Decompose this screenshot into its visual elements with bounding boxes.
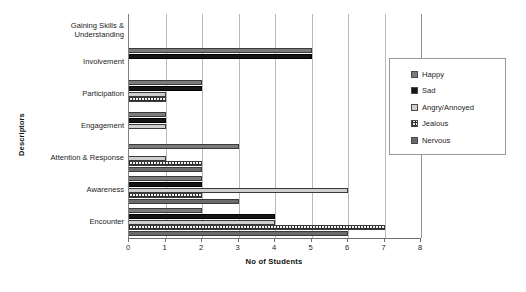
y-axis-category-label: Gaining Skills & Understanding <box>0 21 124 40</box>
bar-chart: Descriptors Gaining Skills & Understandi… <box>0 0 526 292</box>
bar-angry-annoyed <box>129 220 275 225</box>
bar-happy <box>129 48 312 53</box>
x-axis-tick-label: 5 <box>302 243 320 252</box>
bar-happy <box>129 208 202 213</box>
y-axis-category-label: Engagement <box>0 121 124 130</box>
legend: Happy Sad Angry/Annoyed Jealous Nervous <box>389 58 506 155</box>
y-axis-category-label: Encounter <box>0 217 124 226</box>
x-axis-tickmark <box>238 238 239 242</box>
legend-label: Happy <box>422 70 444 79</box>
x-axis-tick-label: 1 <box>156 243 174 252</box>
bar-jealous <box>129 225 385 230</box>
legend-label: Jealous <box>422 119 448 128</box>
bars-layer: Gaining Skills & UnderstandingInvolvemen… <box>129 14 420 238</box>
category-row: Engagement <box>129 110 420 142</box>
x-axis-tickmark <box>201 238 202 242</box>
bar-happy <box>129 144 239 149</box>
x-axis-tick-label: 6 <box>338 243 356 252</box>
x-axis-tickmark <box>128 238 129 242</box>
legend-item-nervous[interactable]: Nervous <box>411 132 505 149</box>
legend-label: Sad <box>422 86 436 95</box>
legend-item-happy[interactable]: Happy <box>411 66 505 83</box>
y-axis-category-label: Involvement <box>0 57 124 66</box>
bar-sad <box>129 214 275 219</box>
bar-sad <box>129 182 202 187</box>
legend-item-sad[interactable]: Sad <box>411 83 505 100</box>
legend-swatch-icon <box>411 71 418 78</box>
x-axis-tick-label: 0 <box>119 243 137 252</box>
bar-sad <box>129 118 166 123</box>
bar-sad <box>129 86 202 91</box>
legend-swatch-icon <box>411 137 418 144</box>
x-axis-tickmark <box>165 238 166 242</box>
legend-label: Angry/Annoyed <box>422 103 474 112</box>
bar-nervous <box>129 167 202 172</box>
legend-swatch-icon <box>411 87 418 94</box>
y-axis-category-label: Participation <box>0 89 124 98</box>
bar-angry-annoyed <box>129 188 348 193</box>
x-axis-tick-label: 8 <box>411 243 429 252</box>
legend-item-angry-annoyed[interactable]: Angry/Annoyed <box>411 99 505 116</box>
x-axis-tick-label: 3 <box>229 243 247 252</box>
category-row: Participation <box>129 78 420 110</box>
x-axis-tickmark <box>384 238 385 242</box>
x-axis-title: No of Students <box>128 257 420 266</box>
x-axis-tickmark <box>274 238 275 242</box>
bar-angry-annoyed <box>129 124 166 129</box>
y-axis-category-label: Attention & Response <box>0 153 124 162</box>
category-row: Involvement <box>129 46 420 78</box>
x-axis-tick-labels: 012345678 <box>128 243 420 255</box>
bar-jealous <box>129 193 202 198</box>
x-axis-tickmark <box>347 238 348 242</box>
bar-sad <box>129 54 312 59</box>
x-axis-tick-label: 4 <box>265 243 283 252</box>
bar-angry-annoyed <box>129 92 166 97</box>
category-row: Awareness <box>129 174 420 206</box>
legend-swatch-icon <box>411 104 418 111</box>
bar-nervous <box>129 231 348 236</box>
category-row: Attention & Response <box>129 142 420 174</box>
bar-happy <box>129 112 166 117</box>
legend-label: Nervous <box>422 136 450 145</box>
x-axis-tickmark <box>420 238 421 242</box>
y-axis-category-label: Awareness <box>0 185 124 194</box>
x-axis-tick-label: 2 <box>192 243 210 252</box>
x-axis-tick-label: 7 <box>375 243 393 252</box>
category-row: Gaining Skills & Understanding <box>129 14 420 46</box>
x-axis-tickmark <box>311 238 312 242</box>
legend-swatch-icon <box>411 120 418 127</box>
bar-happy <box>129 176 202 181</box>
bar-happy <box>129 80 202 85</box>
bar-nervous <box>129 199 239 204</box>
category-row: Encounter <box>129 206 420 238</box>
bar-jealous <box>129 161 202 166</box>
legend-item-jealous[interactable]: Jealous <box>411 116 505 133</box>
plot-area: Gaining Skills & UnderstandingInvolvemen… <box>128 14 420 238</box>
bar-jealous <box>129 97 166 102</box>
bar-angry-annoyed <box>129 156 166 161</box>
